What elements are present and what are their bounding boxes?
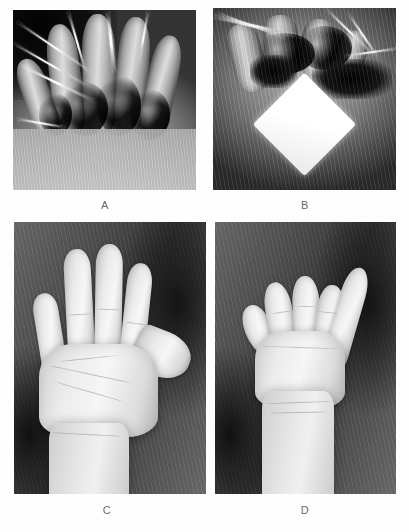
- panel-b-intraoperative-wound-with-gauze: [213, 8, 396, 190]
- panel-c-photo: [14, 222, 206, 494]
- panel-d-caption: D: [285, 504, 325, 516]
- panel-b-photo: [213, 8, 396, 190]
- panel-d-postoperative-flexion: [215, 222, 396, 494]
- panel-c-caption: C: [87, 504, 127, 516]
- forearm: [262, 391, 334, 494]
- panel-a-caption: A: [85, 199, 125, 211]
- figure-panel-grid: A B: [0, 0, 409, 532]
- panel-a-photo: [13, 10, 196, 190]
- panel-c-postoperative-extension: [14, 222, 206, 494]
- panel-d-photo: [215, 222, 396, 494]
- panel-b-caption: B: [285, 199, 325, 211]
- panel-a-intraoperative-degloved-hand: [13, 10, 196, 190]
